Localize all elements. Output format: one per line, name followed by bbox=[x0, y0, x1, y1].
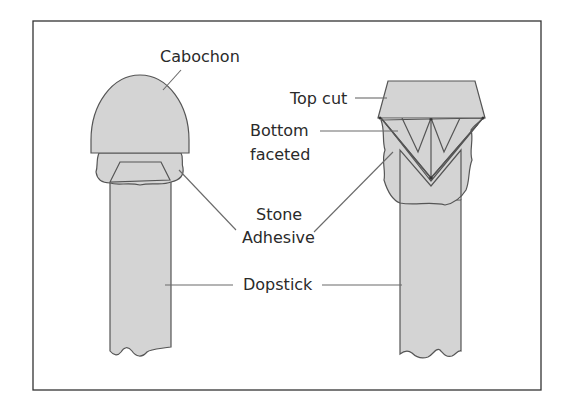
label-adhesive-line: Adhesive bbox=[242, 228, 315, 247]
culet-point bbox=[429, 176, 433, 180]
label-top-cut: Top cut bbox=[289, 89, 347, 108]
label-dopstick: Dopstick bbox=[243, 275, 313, 294]
label-bottom-faceted-line2: faceted bbox=[250, 145, 310, 164]
left-dopstick bbox=[110, 180, 171, 356]
right-dopstick bbox=[400, 200, 461, 358]
dopstick-diagram: Cabochon Top cut Bottom faceted Stone Ad… bbox=[0, 0, 568, 410]
left-stone-base bbox=[110, 162, 170, 182]
girdle-point-left bbox=[379, 117, 382, 120]
girdle-point-right bbox=[482, 117, 485, 120]
label-cabochon: Cabochon bbox=[160, 47, 240, 66]
label-bottom-faceted-line1: Bottom bbox=[250, 121, 309, 140]
label-stone-line: Stone bbox=[256, 205, 302, 224]
top-cut-crown bbox=[378, 81, 485, 118]
